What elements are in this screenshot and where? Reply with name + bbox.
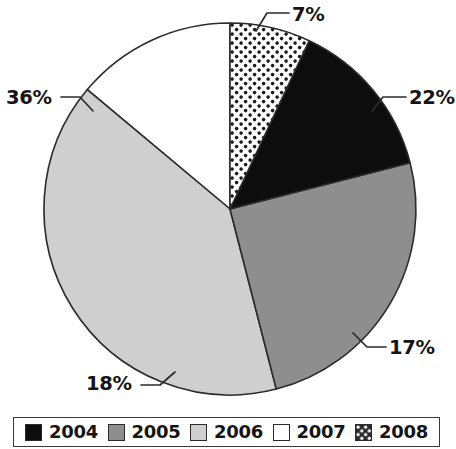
legend-item-2005: 2005 bbox=[108, 423, 181, 441]
pie-label-2005: 17% bbox=[389, 338, 435, 358]
pie-label-2007: 36% bbox=[6, 88, 52, 108]
legend-item-2007: 2007 bbox=[273, 423, 346, 441]
chart-legend: 2004 2005 2006 2007 2008 bbox=[13, 417, 440, 447]
legend-label-2007: 2007 bbox=[297, 423, 346, 441]
pie-chart-canvas bbox=[0, 0, 456, 449]
legend-item-2004: 2004 bbox=[25, 423, 98, 441]
legend-item-2008: 2008 bbox=[355, 423, 428, 441]
pie-chart-figure: 7% 22% 17% 18% 36% 2004 2005 2006 2007 bbox=[0, 0, 456, 449]
legend-swatch-2007-icon bbox=[273, 424, 290, 441]
legend-swatch-2008-icon bbox=[355, 424, 372, 441]
legend-label-2008: 2008 bbox=[379, 423, 428, 441]
legend-swatch-2006-icon bbox=[190, 424, 207, 441]
legend-label-2006: 2006 bbox=[214, 423, 263, 441]
pie-label-2004: 22% bbox=[409, 88, 455, 108]
legend-label-2004: 2004 bbox=[49, 423, 98, 441]
pie-label-2008: 7% bbox=[292, 5, 325, 25]
legend-label-2005: 2005 bbox=[132, 423, 181, 441]
legend-swatch-2005-icon bbox=[108, 424, 125, 441]
pie-label-2006: 18% bbox=[86, 374, 132, 394]
legend-item-2006: 2006 bbox=[190, 423, 263, 441]
legend-swatch-2004-icon bbox=[25, 424, 42, 441]
